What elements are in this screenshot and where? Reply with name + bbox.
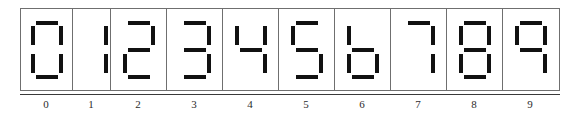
seven-segment-glyph-3: [178, 21, 212, 79]
segment-bottom-icon: [128, 75, 150, 79]
axis-baseline: [20, 94, 560, 95]
segment-bottom-icon: [296, 75, 318, 79]
axis-label-5: 5: [278, 97, 334, 111]
segment-top-left-icon: [347, 26, 351, 45]
segment-top-left-icon: [31, 26, 35, 45]
segment-bottom-icon: [464, 75, 486, 79]
segment-bottom-right-icon: [104, 54, 108, 73]
segment-bottom-right-icon: [431, 54, 435, 73]
seven-segment-digit-figure: 0123456789: [0, 0, 568, 120]
digit-cell-6: [335, 9, 391, 90]
segment-bottom-right-icon: [487, 54, 491, 73]
segment-bottom-left-icon: [459, 54, 463, 73]
segment-bottom-left-icon: [123, 54, 127, 73]
axis-label-9: 9: [502, 97, 558, 111]
axis-label-7: 7: [390, 97, 446, 111]
axis-label-row: 0123456789: [20, 97, 558, 111]
segment-top-icon: [36, 21, 58, 25]
segment-middle-icon: [352, 48, 374, 52]
segment-middle-icon: [184, 48, 206, 52]
digit-cell-9: [503, 9, 559, 90]
segment-top-icon: [408, 21, 430, 25]
segment-top-right-icon: [59, 26, 63, 45]
axis-label-3: 3: [166, 97, 222, 111]
digit-cell-8: [447, 9, 503, 90]
segment-middle-icon: [240, 48, 262, 52]
seven-segment-glyph-9: [514, 21, 548, 79]
segment-middle-icon: [296, 48, 318, 52]
segment-bottom-right-icon: [319, 54, 323, 73]
segment-top-left-icon: [291, 26, 295, 45]
segment-bottom-right-icon: [263, 54, 267, 73]
segment-top-right-icon: [431, 26, 435, 45]
segment-bottom-left-icon: [31, 54, 35, 73]
segment-top-right-icon: [487, 26, 491, 45]
digit-cell-3: [167, 9, 223, 90]
segment-top-left-icon: [235, 26, 239, 45]
segment-top-icon: [296, 21, 318, 25]
segment-top-left-icon: [459, 26, 463, 45]
axis-label-8: 8: [446, 97, 502, 111]
segment-bottom-right-icon: [207, 54, 211, 73]
digit-cell-4: [223, 9, 279, 90]
segment-middle-icon: [520, 48, 542, 52]
seven-segment-glyph-4: [234, 21, 268, 79]
segment-top-right-icon: [263, 26, 267, 45]
axis-label-6: 6: [334, 97, 390, 111]
seven-segment-glyph-5: [290, 21, 324, 79]
axis-label-4: 4: [222, 97, 278, 111]
segment-top-right-icon: [543, 26, 547, 45]
segment-bottom-right-icon: [375, 54, 379, 73]
digit-cell-2: [111, 9, 167, 90]
segment-bottom-icon: [184, 75, 206, 79]
digit-cell-7: [391, 9, 447, 90]
segment-top-right-icon: [207, 26, 211, 45]
seven-segment-glyph-2: [122, 21, 156, 79]
axis-label-1: 1: [72, 97, 110, 111]
segment-top-icon: [184, 21, 206, 25]
segment-middle-icon: [128, 48, 150, 52]
seven-segment-glyph-6: [346, 21, 380, 79]
segment-top-right-icon: [151, 26, 155, 45]
seven-segment-glyph-0: [30, 21, 64, 79]
segment-top-icon: [464, 21, 486, 25]
segment-top-left-icon: [515, 26, 519, 45]
segment-bottom-icon: [352, 75, 374, 79]
segment-top-right-icon: [104, 26, 108, 45]
segment-bottom-left-icon: [347, 54, 351, 73]
axis-label-0: 0: [20, 97, 72, 111]
digit-cell-1: [73, 9, 111, 90]
seven-segment-glyph-1: [75, 21, 109, 79]
axis-label-2: 2: [110, 97, 166, 111]
seven-segment-glyph-8: [458, 21, 492, 79]
digit-cell-5: [279, 9, 335, 90]
digit-cell-0: [21, 9, 73, 90]
digit-cells-frame: [20, 8, 560, 91]
segment-bottom-icon: [36, 75, 58, 79]
seven-segment-glyph-7: [402, 21, 436, 79]
segment-bottom-right-icon: [59, 54, 63, 73]
segment-top-icon: [128, 21, 150, 25]
segment-top-icon: [520, 21, 542, 25]
segment-bottom-right-icon: [543, 54, 547, 73]
segment-middle-icon: [464, 48, 486, 52]
